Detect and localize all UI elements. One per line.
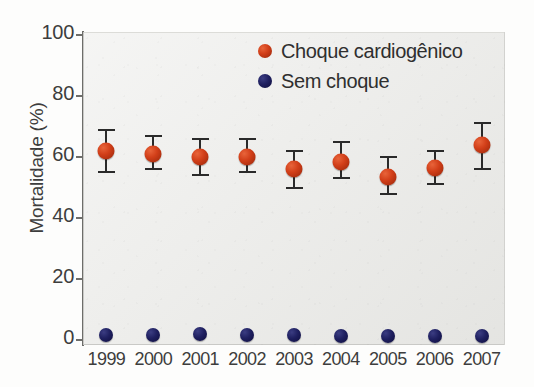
data-point-choque-cardiogenico: [379, 168, 396, 185]
circle-marker-orange-icon: [258, 44, 272, 58]
y-tick-mark: [76, 339, 83, 341]
y-tick-label: 80: [4, 82, 74, 105]
error-bar-cap: [145, 135, 162, 137]
error-bar-cap: [427, 183, 444, 185]
error-bar-cap: [239, 171, 256, 173]
error-bar-cap: [239, 138, 256, 140]
y-tick-label: 0: [4, 326, 74, 349]
error-bar-cap: [333, 177, 350, 179]
y-tick-mark: [76, 217, 83, 219]
data-point-sem-choque: [193, 327, 207, 341]
data-point-sem-choque: [99, 328, 113, 342]
error-bar-cap: [474, 122, 491, 124]
data-point-choque-cardiogenico: [145, 145, 162, 162]
error-bar-cap: [474, 168, 491, 170]
error-bar-cap: [98, 129, 115, 131]
data-point-choque-cardiogenico: [286, 161, 303, 178]
data-point-sem-choque: [146, 328, 160, 342]
circle-marker-navy-icon: [258, 74, 272, 88]
y-tick-label: 60: [4, 143, 74, 166]
error-bar-cap: [286, 150, 303, 152]
y-tick-label: 100: [4, 21, 74, 44]
chart-legend: Choque cardiogênico Sem choque: [258, 36, 508, 96]
error-bar-cap: [380, 193, 397, 195]
data-point-sem-choque: [287, 328, 301, 342]
error-bar-cap: [380, 156, 397, 158]
data-point-choque-cardiogenico: [239, 149, 256, 166]
x-tick-label: 2007: [453, 349, 511, 370]
y-tick-mark: [76, 156, 83, 158]
chart-figure: Mortalidade (%) 020406080100 19992000200…: [0, 0, 534, 387]
data-point-choque-cardiogenico: [192, 149, 209, 166]
legend-item-sem-choque[interactable]: Sem choque: [258, 66, 508, 96]
error-bar-cap: [192, 174, 209, 176]
data-point-sem-choque: [381, 329, 395, 343]
data-point-sem-choque: [475, 329, 489, 343]
legend-item-choque-cardiogenico[interactable]: Choque cardiogênico: [258, 36, 508, 66]
y-tick-label: 40: [4, 204, 74, 227]
y-tick-mark: [76, 278, 83, 280]
data-point-sem-choque: [428, 329, 442, 343]
data-point-choque-cardiogenico: [332, 153, 349, 170]
data-point-choque-cardiogenico: [473, 136, 490, 153]
data-point-sem-choque: [334, 329, 348, 343]
error-bar-cap: [145, 168, 162, 170]
error-bar-cap: [333, 141, 350, 143]
error-bar-cap: [427, 150, 444, 152]
data-point-sem-choque: [240, 328, 254, 342]
error-bar-cap: [192, 138, 209, 140]
data-point-choque-cardiogenico: [98, 142, 115, 159]
y-tick-label: 20: [4, 265, 74, 288]
y-tick-mark: [76, 34, 83, 36]
legend-item-label: Choque cardiogênico: [281, 40, 462, 63]
y-tick-mark: [76, 95, 83, 97]
error-bar-cap: [98, 171, 115, 173]
error-bar-cap: [286, 187, 303, 189]
legend-item-label: Sem choque: [281, 70, 389, 93]
data-point-choque-cardiogenico: [426, 159, 443, 176]
